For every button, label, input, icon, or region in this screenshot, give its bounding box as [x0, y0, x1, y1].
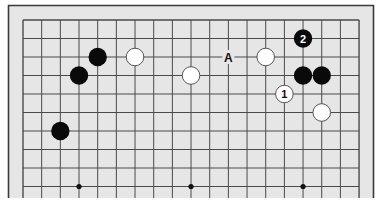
black-stone [313, 66, 331, 84]
black-stone [51, 122, 69, 140]
white-stone [257, 48, 275, 66]
point-label-a: A [224, 51, 233, 65]
stone-move-number: 1 [281, 88, 287, 100]
star-point [300, 184, 305, 189]
black-stone [88, 48, 106, 66]
white-stone [126, 48, 144, 66]
stone-move-number: 2 [300, 33, 306, 45]
white-stone [313, 104, 331, 122]
black-stone [294, 66, 312, 84]
board-marks: A [222, 50, 234, 65]
white-stone [182, 67, 200, 85]
black-stone [70, 66, 88, 84]
black-stone-2: 2 [294, 29, 312, 47]
go-board-diagram: A 21 [0, 0, 379, 205]
white-stone-1: 1 [276, 85, 294, 103]
star-point [188, 184, 193, 189]
star-point [76, 184, 81, 189]
